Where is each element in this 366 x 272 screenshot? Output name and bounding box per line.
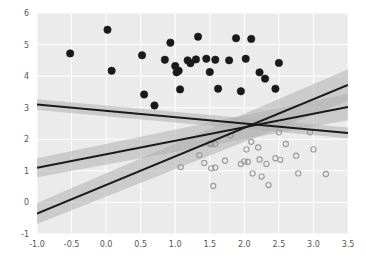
- scatter-point-filled: [175, 67, 182, 74]
- y-tick-label: 6: [24, 9, 29, 18]
- scatter-point-filled: [138, 52, 145, 59]
- scatter-point-filled: [140, 91, 147, 98]
- y-tick-label: 5: [24, 41, 29, 50]
- scatter-point-filled: [225, 57, 232, 64]
- x-tick-label: -0.5: [64, 240, 80, 249]
- scatter-point-filled: [248, 35, 255, 42]
- y-tick-label: 0: [24, 198, 29, 207]
- x-tick-label: -1.0: [29, 240, 45, 249]
- scatter-point-filled: [167, 39, 174, 46]
- scatter-point-filled: [212, 56, 219, 63]
- y-axis-tick-labels: -10123456: [21, 9, 29, 239]
- y-tick-label: -1: [21, 230, 29, 239]
- scatter-point-filled: [232, 35, 239, 42]
- x-tick-label: 3.5: [342, 240, 355, 249]
- x-tick-label: 1.5: [203, 240, 216, 249]
- x-tick-label: 0.0: [100, 240, 113, 249]
- scatter-point-filled: [151, 102, 158, 109]
- x-tick-label: 3.0: [307, 240, 320, 249]
- scatter-point-filled: [176, 86, 183, 93]
- scatter-point-filled: [272, 85, 279, 92]
- scatter-point-filled: [66, 50, 73, 57]
- scatter-point-filled: [161, 56, 168, 63]
- scatter-point-filled: [194, 33, 201, 40]
- scatter-point-filled: [237, 88, 244, 95]
- x-tick-label: 2.5: [273, 240, 286, 249]
- x-tick-label: 0.5: [134, 240, 147, 249]
- scatter-point-filled: [104, 26, 111, 33]
- scatter-point-filled: [108, 67, 115, 74]
- scatter-plot-svg: -1.0-0.50.00.51.01.52.02.53.03.5-1012345…: [0, 0, 366, 272]
- y-tick-label: 4: [24, 72, 29, 81]
- x-tick-label: 1.0: [169, 240, 182, 249]
- scatter-point-filled: [256, 69, 263, 76]
- x-axis-tick-labels: -1.0-0.50.00.51.01.52.02.53.03.5: [29, 240, 354, 249]
- scatter-point-filled: [242, 55, 249, 62]
- scatter-point-filled: [261, 75, 268, 82]
- scatter-point-filled: [275, 59, 282, 66]
- y-tick-label: 2: [24, 135, 29, 144]
- x-tick-label: 2.0: [238, 240, 251, 249]
- scatter-point-filled: [192, 56, 199, 63]
- scatter-point-filled: [203, 55, 210, 62]
- scatter-point-filled: [206, 68, 213, 75]
- scatter-point-filled: [214, 85, 221, 92]
- y-tick-label: 1: [24, 167, 29, 176]
- y-tick-label: 3: [24, 104, 29, 113]
- chart-figure: -1.0-0.50.00.51.01.52.02.53.03.5-1012345…: [0, 0, 366, 272]
